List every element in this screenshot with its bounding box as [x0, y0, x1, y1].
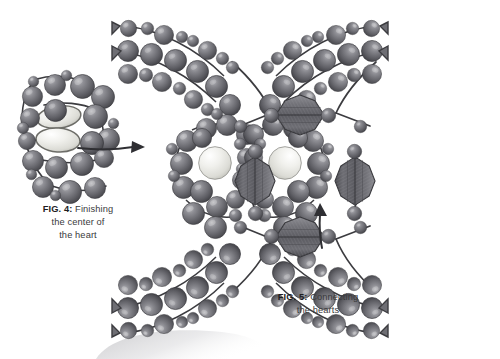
fig5-strap-bottom-left: [112, 243, 241, 338]
illustration-page: FIG. 4: Finishing the center of the hear…: [0, 0, 500, 359]
fig5-caption-label: FIG. 5:: [278, 292, 308, 302]
fig4-caption-line2: the center of: [52, 217, 105, 227]
fig4-illustration: [17, 70, 145, 203]
fig5-caption: FIG. 5: Connecting the hearts: [228, 291, 408, 317]
fig4-caption-line3: the heart: [59, 230, 97, 240]
fig5-caption-line1: Connecting: [310, 292, 358, 302]
fig4-caption: FIG. 4: Finishing the center of the hear…: [8, 203, 148, 243]
fig5-strap-top-right: [259, 20, 388, 115]
fig5-caption-line2: the hearts: [297, 305, 339, 315]
fig4-caption-label: FIG. 4:: [43, 204, 73, 214]
fig4-caption-line1: Finishing: [75, 204, 113, 214]
fig5-strap-top-left: [112, 20, 241, 115]
